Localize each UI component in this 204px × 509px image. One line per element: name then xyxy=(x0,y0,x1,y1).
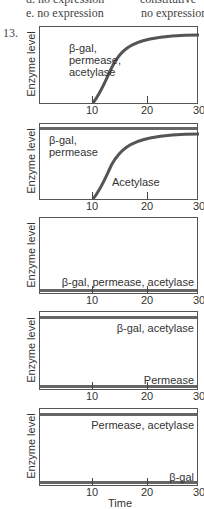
x-tick-10 xyxy=(92,192,93,199)
x-tick-20 xyxy=(147,382,148,389)
x-tick-label-20: 20 xyxy=(137,390,157,402)
label-all-enzymes-line1: β-gal, xyxy=(69,42,97,54)
x-tick-label-20: 20 xyxy=(137,486,157,498)
question-number: 13. xyxy=(3,26,18,41)
x-tick-label-10: 10 xyxy=(82,390,102,402)
x-tick-label-10: 10 xyxy=(82,200,102,212)
induction-curve xyxy=(40,27,199,105)
y-axis-label: Enzyme level xyxy=(25,406,37,486)
x-tick-label-10: 10 xyxy=(82,486,102,498)
y-axis-label: Enzyme level xyxy=(25,24,37,104)
plot-area: β-gal, acetylase Permease xyxy=(39,311,198,390)
y-axis-label: Enzyme level xyxy=(25,215,37,295)
x-tick-label-10: 10 xyxy=(82,294,102,306)
answer-e-right: no expression xyxy=(141,6,204,21)
label-bgal-acetylase: β-gal, acetylase xyxy=(117,322,194,334)
plot-area: β-gal, permease, acetylase xyxy=(39,26,198,104)
label-all-enzymes-line3: acetylase xyxy=(69,66,115,78)
label-bgal: β-gal xyxy=(169,471,194,483)
x-tick-label-20: 20 xyxy=(137,200,157,212)
x-tick-label-20: 20 xyxy=(137,294,157,306)
y-axis-label: Enzyme level xyxy=(25,310,37,390)
constant-zero-line xyxy=(40,289,197,292)
x-tick-20 xyxy=(147,286,148,293)
x-tick-20 xyxy=(147,478,148,485)
label-acetylase: Acetylase xyxy=(112,176,160,188)
x-tick-10 xyxy=(92,96,93,103)
plot-area: β-gal, permease, acetylase xyxy=(39,217,198,294)
plot-area: β-gal, permease Acetylase xyxy=(39,123,198,200)
label-bgal-permease-line2: permease xyxy=(49,146,98,158)
x-tick-label-30: 30 xyxy=(189,200,204,212)
x-tick-20 xyxy=(147,96,148,103)
y-axis-label: Enzyme level xyxy=(25,121,37,201)
plot-area: Permease, acetylase β-gal xyxy=(39,408,198,486)
x-tick-label-10: 10 xyxy=(82,104,102,116)
x-tick-10 xyxy=(92,286,93,293)
label-all-enzymes: β-gal, permease, acetylase xyxy=(62,276,194,288)
constant-high-line xyxy=(40,316,197,319)
x-tick-10 xyxy=(92,478,93,485)
x-tick-label-30: 30 xyxy=(189,104,204,116)
x-tick-label-30: 30 xyxy=(189,390,204,402)
label-permease: Permease xyxy=(144,374,194,386)
x-tick-10 xyxy=(92,382,93,389)
x-tick-20 xyxy=(147,192,148,199)
constant-high-line xyxy=(40,413,197,416)
answer-e: e. no expression xyxy=(26,6,104,21)
label-permease-acetylase: Permease, acetylase xyxy=(91,419,194,431)
label-all-enzymes-line2: permease, xyxy=(69,54,121,66)
label-bgal-permease-line1: β-gal, xyxy=(49,134,77,146)
x-tick-label-20: 20 xyxy=(137,104,157,116)
x-tick-label-30: 30 xyxy=(189,294,204,306)
x-tick-label-30: 30 xyxy=(189,486,204,498)
x-axis-label: Time xyxy=(108,497,132,509)
